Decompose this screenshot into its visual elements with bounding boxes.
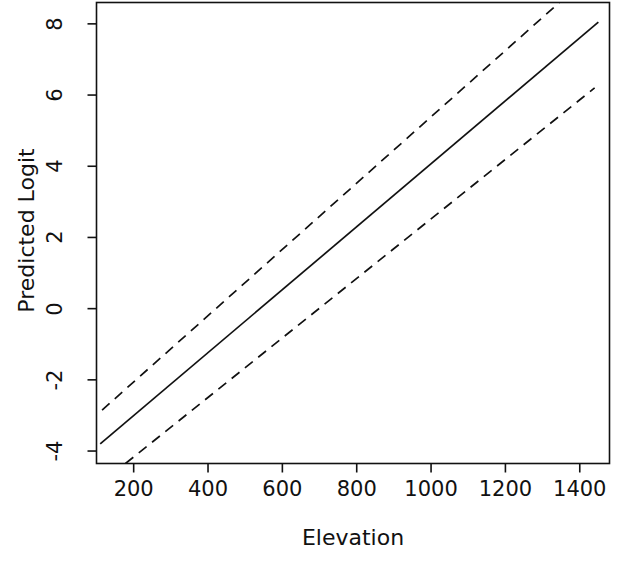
plot-box bbox=[97, 3, 610, 464]
series-line-0 bbox=[100, 22, 598, 444]
y-tick-label--4: -4 bbox=[42, 421, 68, 481]
y-tick-label-8: 8 bbox=[42, 0, 68, 54]
series-line-2 bbox=[126, 88, 595, 464]
series-group bbox=[100, 3, 598, 464]
y-tick-label-4: 4 bbox=[42, 136, 68, 196]
y-tick-label-6: 6 bbox=[42, 65, 68, 125]
y-axis-title: Predicted Logit bbox=[14, 81, 39, 381]
series-line-1 bbox=[102, 3, 559, 411]
y-tick-label-0: 0 bbox=[42, 279, 68, 339]
x-axis-title: Elevation bbox=[203, 525, 503, 550]
x-tick-label-1400: 1400 bbox=[535, 477, 618, 501]
chart-figure: Predicted Logit Elevation -4-202468 2004… bbox=[0, 0, 618, 565]
y-tick-label-2: 2 bbox=[42, 207, 68, 267]
y-tick-label--2: -2 bbox=[42, 350, 68, 410]
